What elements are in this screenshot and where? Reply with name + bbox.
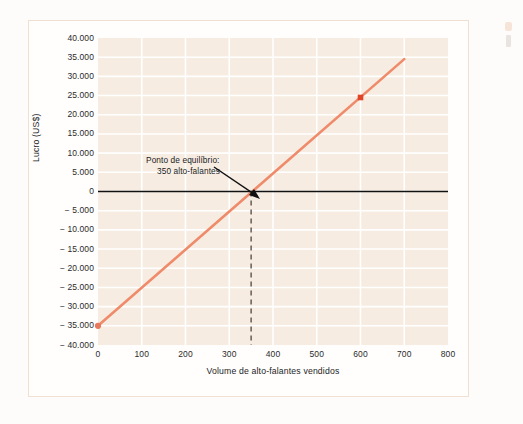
chart-plot-area <box>98 38 448 345</box>
y-axis-tick-label: 30.000 <box>67 72 94 81</box>
y-axis-tick-label: 5.000 <box>72 168 94 177</box>
y-axis-tick-label: 20.000 <box>67 110 94 119</box>
y-axis-tick-label: − 40.000 <box>60 341 94 350</box>
y-axis-tick-label: − 30.000 <box>60 302 94 311</box>
x-axis-tick-label: 800 <box>428 350 468 359</box>
y-axis-tick-label: 15.000 <box>67 129 94 138</box>
chart-series-layer <box>98 38 448 345</box>
x-axis-tick-label: 200 <box>166 350 206 359</box>
y-axis-tick-label: 40.000 <box>67 34 94 43</box>
y-axis-tick-label: 0 <box>89 187 94 196</box>
page-edge-artifact <box>505 22 515 52</box>
y-axis-tick-label: − 10.000 <box>60 225 94 234</box>
break-even-annotation-line1: Ponto de equilíbrio: <box>146 155 220 165</box>
x-axis-title: Volume de alto-falantes vendidos <box>98 366 448 376</box>
x-axis-tick-label: 400 <box>253 350 293 359</box>
x-axis-tick-label: 0 <box>78 350 118 359</box>
y-axis-tick-label: 35.000 <box>67 53 94 62</box>
y-axis-tick-label: − 20.000 <box>60 264 94 273</box>
break-even-annotation: Ponto de equilíbrio: 350 alto-falantes <box>146 155 220 176</box>
x-axis-tick-labels: 0100200300400500600700800 <box>98 350 448 364</box>
page-edge-artifact-mark-gray <box>506 35 511 47</box>
x-axis-tick-label: 700 <box>384 350 424 359</box>
page-edge-artifact-mark-orange <box>505 22 512 31</box>
x-axis-tick-label: 300 <box>209 350 249 359</box>
x-axis-tick-label: 600 <box>341 350 381 359</box>
y-axis-tick-label: 10.000 <box>67 149 94 158</box>
break-even-annotation-line2: 350 alto-falantes <box>146 166 220 177</box>
y-axis-tick-label: − 15.000 <box>60 245 94 254</box>
y-axis-tick-label: − 5.000 <box>65 206 94 215</box>
x-axis-tick-label: 100 <box>122 350 162 359</box>
figure-root: 40.00035.00030.00025.00020.00015.00010.0… <box>0 0 523 424</box>
y-axis-tick-label: − 25.000 <box>60 283 94 292</box>
y-axis-tick-labels: 40.00035.00030.00025.00020.00015.00010.0… <box>40 38 94 345</box>
y-axis-title: Lucro (US$) <box>31 114 41 162</box>
y-axis-tick-label: − 35.000 <box>60 321 94 330</box>
x-axis-tick-label: 500 <box>297 350 337 359</box>
y-axis-tick-label: 25.000 <box>67 91 94 100</box>
